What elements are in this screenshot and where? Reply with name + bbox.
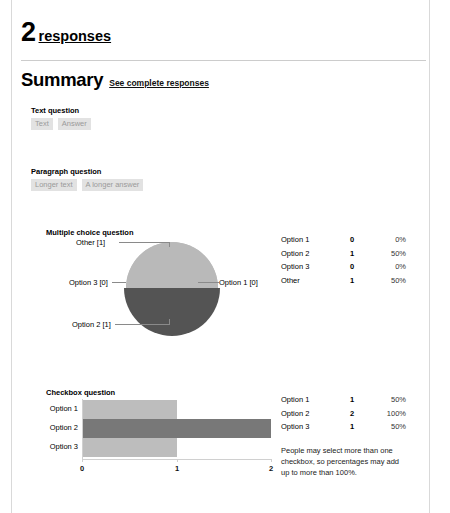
legend-row: Option 2 2 100%	[281, 409, 406, 423]
x-tick-mark	[177, 459, 178, 462]
bar-option-3	[82, 438, 177, 457]
x-tick-label: 2	[269, 464, 273, 473]
bar-option-1	[82, 400, 177, 419]
checkbox-legend-note: People may select more than one checkbox…	[281, 446, 409, 479]
legend-count: 1	[336, 395, 368, 409]
legend-percent: 50%	[368, 422, 406, 436]
legend-row: Option 3 1 50%	[281, 422, 406, 436]
x-tick-mark	[271, 459, 272, 462]
checkbox-legend: Option 1 1 50% Option 2 2 100% Option 3 …	[281, 395, 406, 436]
bar-option-2	[82, 419, 271, 438]
legend-count: 1	[336, 422, 368, 436]
legend-label: Option 3	[281, 422, 336, 436]
bar-chart: Option 1 Option 2 Option 3 0 1 2	[12, 0, 431, 513]
bar-category-label: Option 2	[34, 423, 78, 432]
bar-category-label: Option 1	[34, 404, 78, 413]
legend-label: Option 2	[281, 409, 336, 423]
x-tick-label: 0	[80, 464, 84, 473]
legend-label: Option 1	[281, 395, 336, 409]
x-tick-mark	[82, 459, 83, 462]
bar-category-label: Option 3	[34, 442, 78, 451]
form-summary-page: 2 responses Summary See complete respons…	[11, 0, 430, 513]
x-tick-label: 1	[175, 464, 179, 473]
legend-percent: 50%	[368, 395, 406, 409]
legend-count: 2	[336, 409, 368, 423]
legend-percent: 100%	[368, 409, 406, 423]
bar-y-axis	[82, 399, 83, 459]
legend-row: Option 1 1 50%	[281, 395, 406, 409]
